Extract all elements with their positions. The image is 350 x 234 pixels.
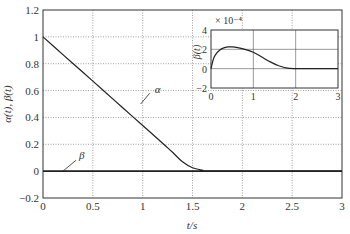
y-axis-label: α(t), β(t): [1, 85, 14, 123]
alpha-annotation: α: [155, 83, 161, 95]
main-y-tick-label: 0.8: [25, 58, 39, 70]
inset-y-tick-label: −2: [196, 83, 207, 94]
inset-chart: 0123−2024 × 10⁻⁴ β(t): [191, 15, 341, 102]
main-x-tick-label: 0: [40, 200, 46, 212]
inset-y-tick-label: 2: [202, 44, 207, 55]
alpha-leader-line: [141, 93, 150, 104]
main-y-tick-label: 0.2: [25, 138, 39, 150]
main-x-tick-label: 0.5: [86, 200, 100, 212]
main-x-tick-label: 2.5: [285, 200, 299, 212]
inset-scale-label: × 10⁻⁴: [215, 15, 242, 26]
main-y-tick-label: 0.6: [25, 85, 39, 97]
x-axis-label: t/s: [187, 219, 197, 231]
main-x-tick-label: 3: [339, 200, 345, 212]
inset-y-tick-label: 0: [202, 64, 207, 75]
inset-y-axis-label: β(t): [191, 44, 203, 60]
main-y-tick-label: 1: [34, 31, 40, 43]
main-x-tick-label: 1.5: [186, 200, 200, 212]
main-y-tick-label: −0.2: [19, 192, 39, 204]
inset-x-tick-label: 3: [336, 91, 341, 102]
inset-y-tick-label: 4: [202, 25, 207, 36]
beta-annotation: β: [78, 149, 85, 161]
main-y-tick-label: 0.4: [25, 111, 39, 123]
inset-x-tick-label: 2: [293, 91, 298, 102]
main-y-tick-label: 1.2: [25, 4, 39, 16]
chart: 00.511.522.53−0.200.20.40.60.811.2 αβ t/…: [0, 0, 350, 234]
main-y-tick-label: 0: [34, 165, 40, 177]
inset-x-tick-label: 1: [251, 91, 256, 102]
main-x-tick-label: 2: [240, 200, 246, 212]
inset-x-tick-label: 0: [209, 91, 214, 102]
main-x-tick-label: 1: [140, 200, 146, 212]
inset-background: [211, 30, 338, 88]
main-annotations: αβ: [63, 83, 161, 171]
beta-leader-line: [63, 160, 76, 171]
